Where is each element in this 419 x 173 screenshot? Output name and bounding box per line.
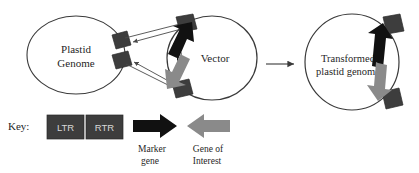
key-marker-gene-arrow [133, 114, 177, 138]
transformed-genome-group: Transformed plastid genome [305, 14, 404, 110]
key-gene-of-interest-arrow [187, 114, 230, 138]
plastid-flank-box-ltr [112, 31, 131, 49]
transformed-genome-label-line1: Transformed [321, 53, 376, 64]
vector-label-line1: Vector [201, 52, 230, 64]
key-marker-gene-label-line1: Marker [138, 144, 167, 154]
key-title: Key: [8, 120, 29, 132]
recombination-line-3 [125, 24, 180, 38]
plastid-genome-label-line1: Plastid [61, 43, 91, 55]
key-legend: Key: LTR RTR Marker gene Gene of Interes… [8, 114, 230, 166]
transformed-genome-label-line2: plastid genome [316, 66, 380, 77]
plastid-flank-box-rtr [112, 51, 132, 69]
key-box-ltr-label: LTR [57, 122, 74, 133]
vector-group: Vector [165, 14, 257, 100]
key-marker-gene-label-line2: gene [141, 156, 159, 166]
plastid-genome-circle [27, 16, 125, 94]
key-box-ltr: LTR [47, 115, 84, 139]
key-box-rtr-label: RTR [95, 122, 114, 133]
diagram-canvas: Plastid Genome Vector [0, 0, 419, 173]
key-gene-of-interest-label-line1: Gene of [193, 144, 224, 154]
key-box-rtr: RTR [86, 115, 123, 139]
plastid-genome-group: Plastid Genome [27, 16, 132, 94]
plastid-genome-label-line2: Genome [57, 57, 94, 69]
key-gene-of-interest-label-line2: Interest [193, 156, 222, 166]
